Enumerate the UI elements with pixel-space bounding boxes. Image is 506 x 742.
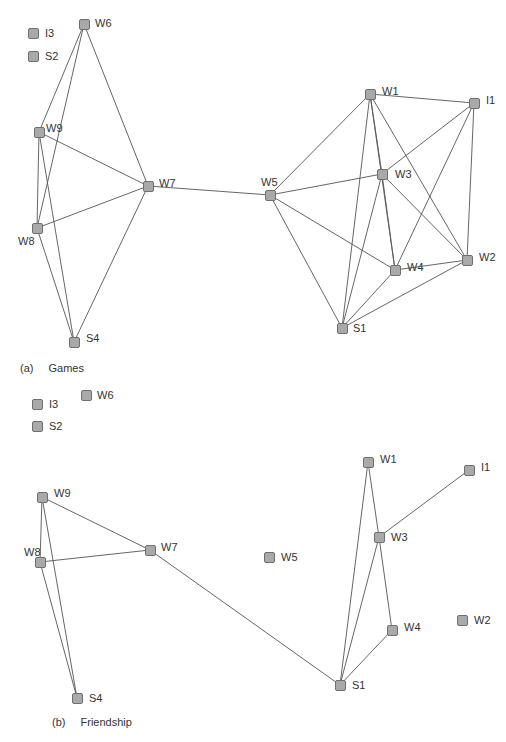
edge-b-w3-w4	[379, 537, 392, 630]
node-label-b-w3: W3	[391, 531, 408, 543]
node-b-i1	[464, 465, 475, 476]
node-label-b-i1: I1	[481, 461, 490, 473]
node-label-b-w6: W6	[97, 389, 114, 401]
edge-b-w3-s1	[340, 537, 379, 685]
node-label-b-w4: W4	[404, 621, 421, 633]
edge-a-w5-s1	[270, 195, 342, 328]
node-label-b-w5: W5	[281, 551, 298, 563]
node-label-a-w6: W6	[95, 17, 112, 29]
edge-a-w5-w4	[270, 195, 395, 270]
network-figure: I3S2W6W9W7W8S4W5W1I1W3W4W2S1I3S2W6W9W7W8…	[0, 0, 506, 742]
edge-a-w9-w8	[37, 132, 39, 228]
node-b-s4	[72, 693, 83, 704]
edge-b-i1-w3	[379, 470, 469, 537]
node-label-a-w4: W4	[407, 261, 424, 273]
edge-a-w3-w4	[382, 174, 395, 270]
node-label-b-w1: W1	[380, 453, 397, 465]
node-a-w7	[143, 181, 154, 192]
node-label-b-w7: W7	[161, 541, 178, 553]
node-a-w3	[377, 169, 388, 180]
node-a-i3	[28, 28, 39, 39]
edge-b-w9-w7	[42, 497, 150, 550]
node-label-a-w3: W3	[395, 168, 412, 180]
node-a-i1	[469, 98, 480, 109]
edge-a-w9-s4	[39, 132, 74, 342]
node-b-w7	[145, 545, 156, 556]
node-b-w2	[457, 615, 468, 626]
node-label-b-s2: S2	[49, 420, 62, 432]
node-b-w3	[374, 532, 385, 543]
node-label-a-w2: W2	[479, 251, 496, 263]
node-b-s1	[335, 680, 346, 691]
node-a-w8	[32, 223, 43, 234]
edge-a-i1-w2	[467, 103, 474, 260]
node-label-a-w1: W1	[382, 85, 399, 97]
node-b-w1	[363, 457, 374, 468]
node-label-a-s1: S1	[353, 322, 366, 334]
caption-tag: (b)	[52, 716, 65, 728]
node-label-a-s4: S4	[86, 332, 99, 344]
edge-a-w5-w3	[270, 174, 382, 195]
edge-b-w8-w7	[40, 550, 150, 562]
edge-a-w8-s4	[37, 228, 74, 342]
node-label-a-w5: W5	[261, 176, 278, 188]
node-a-w4	[390, 265, 401, 276]
edge-b-w1-w3	[368, 462, 379, 537]
node-label-a-w8: W8	[18, 235, 35, 247]
node-a-w1	[365, 89, 376, 100]
node-b-i3	[32, 399, 43, 410]
edge-a-w1-s1	[342, 94, 370, 328]
edge-b-w4-s1	[340, 630, 392, 685]
caption-tag: (a)	[20, 362, 33, 374]
node-a-s1	[337, 323, 348, 334]
node-a-w2	[462, 255, 473, 266]
node-label-a-i3: I3	[45, 27, 54, 39]
edge-a-w4-w2	[395, 260, 467, 270]
caption-games: (a) Games	[20, 362, 84, 374]
edge-b-w9-s4	[42, 497, 77, 698]
node-label-b-i3: I3	[49, 398, 58, 410]
node-b-w8	[35, 557, 46, 568]
node-label-a-w7: W7	[159, 177, 176, 189]
node-label-a-i1: I1	[486, 94, 495, 106]
edge-b-w1-s1	[340, 462, 368, 685]
node-a-w5	[265, 190, 276, 201]
edge-b-w7-s1	[150, 550, 340, 685]
node-b-w6	[81, 390, 92, 401]
node-b-w9	[37, 492, 48, 503]
node-a-s2	[28, 51, 39, 62]
edge-a-w6-w9	[39, 24, 84, 132]
caption-friendship: (b) Friendship	[52, 716, 132, 728]
edge-a-w2-s1	[342, 260, 467, 328]
node-label-b-s1: S1	[352, 679, 365, 691]
edge-a-w6-w7	[84, 24, 148, 186]
node-label-b-w2: W2	[474, 614, 491, 626]
node-a-s4	[69, 337, 80, 348]
node-label-a-s2: S2	[45, 50, 58, 62]
caption-title: Games	[49, 362, 84, 374]
edge-a-w3-s1	[342, 174, 382, 328]
node-label-b-s4: S4	[89, 692, 102, 704]
node-label-a-w9: W9	[46, 122, 63, 134]
edge-a-i1-w4	[395, 103, 474, 270]
node-b-s2	[32, 421, 43, 432]
node-a-w6	[79, 19, 90, 30]
node-label-b-w8: W8	[24, 546, 41, 558]
edge-a-w5-w1	[270, 94, 370, 195]
node-b-w4	[387, 625, 398, 636]
node-b-w5	[264, 552, 275, 563]
node-label-b-w9: W9	[54, 487, 71, 499]
edge-a-w9-w7	[39, 132, 148, 186]
node-a-w9	[34, 127, 45, 138]
edge-b-w8-s4	[40, 562, 77, 698]
caption-title: Friendship	[81, 716, 132, 728]
